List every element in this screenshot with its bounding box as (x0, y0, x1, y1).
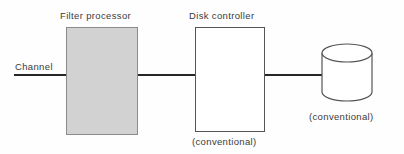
disk-note: (conventional) (309, 112, 374, 122)
disk-controller-label: Disk controller (189, 11, 254, 21)
channel-connection-line (14, 74, 67, 77)
filter-processor-label: Filter processor (60, 11, 131, 21)
disk-cylinder-icon (321, 44, 373, 101)
channel-label: Channel (15, 62, 53, 72)
disk-controller-to-disk-line (264, 74, 323, 77)
disk-node (321, 44, 373, 101)
block-diagram: Filter processor Disk controller Channel… (0, 0, 404, 154)
disk-controller-note: (conventional) (192, 137, 257, 147)
filter-processor-to-disk-controller-line (137, 74, 196, 77)
filter-processor-node (66, 27, 138, 135)
disk-controller-node (195, 27, 265, 132)
